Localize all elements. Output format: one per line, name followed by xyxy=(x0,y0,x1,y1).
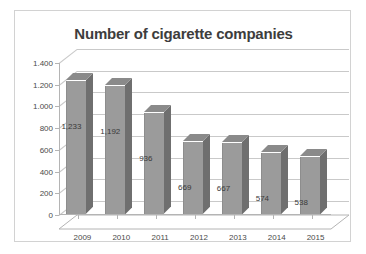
x-axis-tick xyxy=(312,215,313,219)
bar-value-label: 1,233 xyxy=(61,122,81,131)
bar-front-face xyxy=(183,142,203,215)
bar-front-face xyxy=(66,81,86,215)
x-axis-tick xyxy=(117,215,118,219)
bar xyxy=(183,142,203,215)
bar-top-face xyxy=(105,78,133,86)
x-axis-tick-label: 2010 xyxy=(112,233,130,242)
x-axis-tick-label: 2011 xyxy=(152,233,169,242)
chart-title: Number of cigarette companies xyxy=(15,25,352,42)
gridline xyxy=(77,49,349,50)
x-axis-tick xyxy=(78,215,79,219)
x-axis-labels: 2009201020112012201320142015 xyxy=(59,229,349,247)
chart-frame: Number of cigarette companies 0200400600… xyxy=(14,10,351,242)
x-axis-tick-label: 2009 xyxy=(74,233,92,242)
bar-front-face xyxy=(144,113,164,215)
bar-value-label: 1,192 xyxy=(100,127,120,136)
bar-side-face xyxy=(320,149,328,215)
bar-top-face xyxy=(261,145,289,153)
bar-value-label: 574 xyxy=(256,194,269,203)
bar-top-face xyxy=(144,105,172,113)
bar-front-face xyxy=(222,143,242,215)
x-axis-tick xyxy=(156,215,157,219)
bar-top-face xyxy=(300,149,328,157)
bar-top-face xyxy=(222,135,250,143)
y-axis-tick-label: 1.000 xyxy=(33,102,53,111)
y-axis-tick-label: 400 xyxy=(40,167,53,176)
y-axis-tick-label: 200 xyxy=(40,189,53,198)
x-axis-tick xyxy=(234,215,235,219)
y-axis-tick-label: 1.400 xyxy=(33,59,53,68)
y-axis-labels: 02004006008001.0001.2001.400 xyxy=(19,63,59,215)
bar-value-label: 669 xyxy=(178,183,191,192)
bar-value-label: 538 xyxy=(295,198,308,207)
bar xyxy=(144,113,164,215)
x-axis-tick-label: 2012 xyxy=(190,233,208,242)
bar-top-face xyxy=(183,134,211,142)
bar-side-face xyxy=(86,73,94,215)
bar-side-face xyxy=(125,78,133,215)
bar-top-face xyxy=(66,73,94,81)
y-axis-tick-label: 600 xyxy=(40,145,53,154)
gridline-depth-connector xyxy=(59,49,78,64)
x-axis-tick-label: 2013 xyxy=(229,233,247,242)
plot-area: 02004006008001.0001.2001.400 1,2331,1929… xyxy=(59,63,331,215)
bar-side-face xyxy=(164,105,172,215)
y-axis-tick-label: 800 xyxy=(40,124,53,133)
bar-front-face xyxy=(105,86,125,215)
chart-screenshot: Number of cigarette companies 0200400600… xyxy=(0,0,366,254)
bar xyxy=(66,81,86,215)
bar xyxy=(222,143,242,215)
y-axis-line xyxy=(59,63,60,215)
x-axis-tick-label: 2015 xyxy=(307,233,325,242)
bar xyxy=(105,86,125,215)
bar-side-face xyxy=(281,145,289,215)
x-axis-tick-label: 2014 xyxy=(268,233,286,242)
x-axis-tick xyxy=(273,215,274,219)
bar xyxy=(261,153,281,215)
bar-value-label: 667 xyxy=(217,184,230,193)
bar-value-label: 936 xyxy=(139,154,152,163)
bar-side-face xyxy=(242,135,250,215)
bar-side-face xyxy=(203,134,211,215)
gridline xyxy=(77,71,349,72)
bar-front-face xyxy=(261,153,281,215)
y-axis-tick-label: 0 xyxy=(49,211,53,220)
y-axis-tick-label: 1.200 xyxy=(33,80,53,89)
x-axis-tick xyxy=(195,215,196,219)
